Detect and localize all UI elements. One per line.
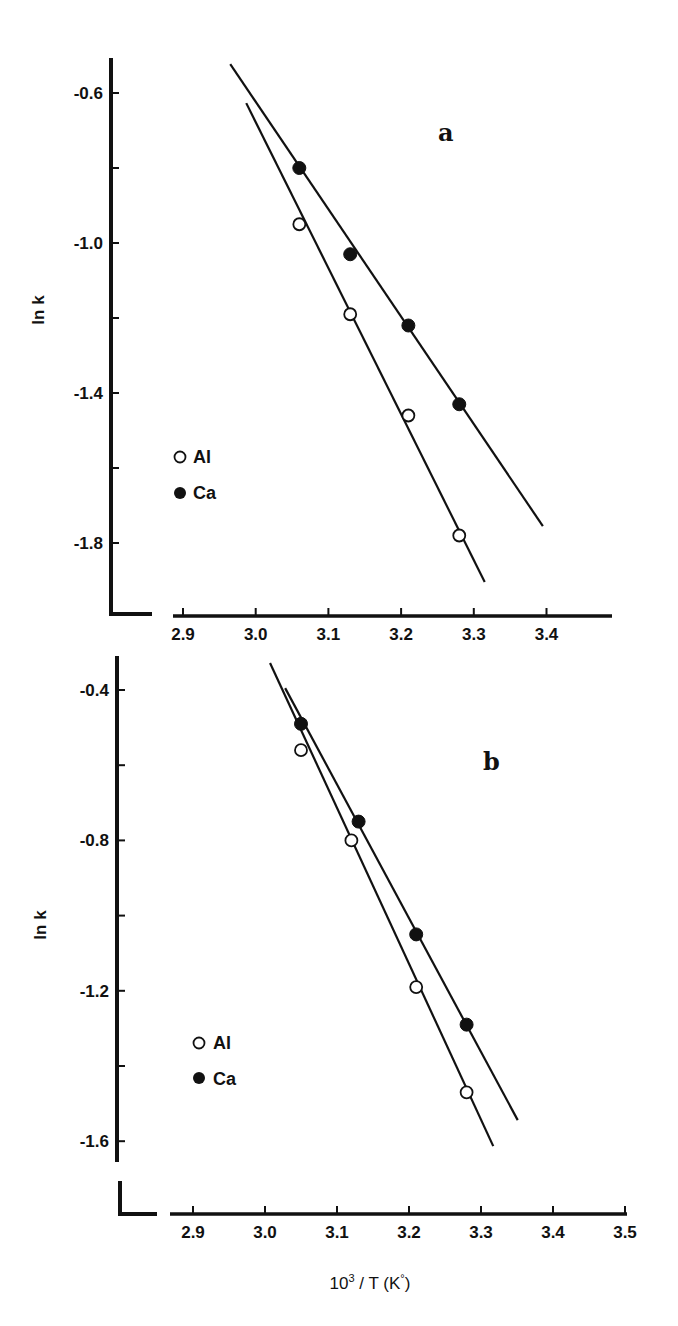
data-point-al [410,981,422,993]
data-point-al [453,530,465,542]
y-tick-label: -0.6 [74,84,103,103]
y-tick-label: -1.0 [74,234,103,253]
data-point-ca [352,815,365,828]
legend-label-al: Al [213,1033,231,1053]
x-tick-label: 3.1 [317,625,341,644]
y-axis-label-a: ln k [29,295,48,325]
figure: -0.6-1.0-1.4-1.8 2.93.03.13.23.33.4 a ln… [0,0,678,1326]
y-tick-label: -1.4 [74,384,104,403]
y-tick-label: -1.6 [80,1132,109,1151]
x-tick-label: 3.0 [253,1223,277,1242]
fit-lines-b [270,663,518,1146]
x-tick-label: 3.2 [389,625,413,644]
legend-label-al: Al [193,447,211,467]
x-tick-label: 2.9 [171,625,195,644]
data-point-ca [402,319,415,332]
data-point-al [344,308,356,320]
data-point-al [461,1086,473,1098]
y-tick-label: -1.2 [80,982,109,1001]
data-point-al [345,834,357,846]
y-tick-label: -0.8 [80,831,109,850]
x-ticks-a: 2.93.03.13.23.33.4 [171,608,559,644]
data-point-ca [293,162,306,175]
data-points-a [293,162,466,542]
x-tick-label: 3.0 [244,625,268,644]
data-point-al [402,410,414,422]
x-ticks-b: 2.93.03.13.23.33.43.5 [181,1206,637,1242]
y-axis-label-b: ln k [31,910,50,940]
legend-al-open-circle-icon [175,452,186,463]
data-point-ca [295,717,308,730]
legend-a: Al Ca [174,447,217,503]
data-point-ca [410,928,423,941]
x-tick-label: 3.2 [397,1223,421,1242]
x-axis-label: 103 / T (K°) [330,1272,411,1293]
legend-label-ca: Ca [193,483,217,503]
data-point-ca [460,1018,473,1031]
legend-al-open-circle-icon [194,1038,205,1049]
data-point-al [295,744,307,756]
y-tick-label: -1.8 [74,534,103,553]
data-point-al [293,218,305,230]
fit-lines-a [230,64,543,582]
data-point-ca [344,248,357,261]
panel-label-b: b [483,747,500,776]
x-tick-label: 3.4 [541,1223,565,1242]
y-tick-label: -0.4 [80,681,110,700]
panel-label-a: a [438,118,454,147]
legend-label-ca: Ca [213,1069,237,1089]
fit-line-al [246,103,484,582]
fit-line-ca [230,64,543,526]
fit-line-al [270,663,493,1146]
panel-a: -0.6-1.0-1.4-1.8 2.93.03.13.23.33.4 a ln… [29,60,612,644]
data-point-ca [453,398,466,411]
x-tick-label: 3.3 [462,625,486,644]
x-tick-label: 3.3 [469,1223,493,1242]
panel-b: -0.4-0.8-1.2-1.6 2.93.03.13.23.33.43.5 b… [31,658,637,1293]
x-tick-label: 3.5 [613,1223,637,1242]
x-tick-label: 2.9 [181,1223,205,1242]
x-tick-label: 3.4 [535,625,559,644]
legend-b: Al Ca [193,1033,237,1089]
legend-ca-filled-circle-icon [193,1072,205,1084]
legend-ca-filled-circle-icon [174,487,186,499]
x-tick-label: 3.1 [325,1223,349,1242]
